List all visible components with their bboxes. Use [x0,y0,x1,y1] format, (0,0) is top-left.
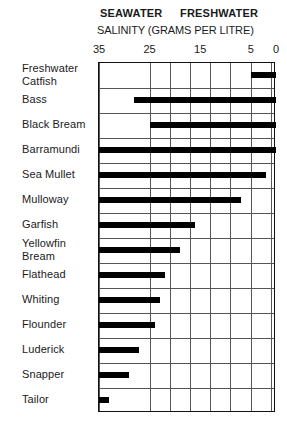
species-label-line: Flathead [22,268,66,281]
x-axis-tick-labels: 35251550 [98,43,287,59]
row-separator [99,113,274,114]
tick-label-0: 0 [273,43,279,56]
bar-bass [134,97,276,103]
species-label-bass: Bass [22,93,47,106]
species-label-line: Freshwater [22,62,78,75]
species-label-column: FreshwaterCatfishBassBlack BreamBarramun… [0,62,95,412]
species-label-line: Luderick [22,343,64,356]
plot-area [98,62,275,412]
species-label-luderick: Luderick [22,343,64,356]
freshwater-zone-label: FRESHWATER [180,7,258,19]
tick-label-35: 35 [93,43,105,56]
bar-freshwater-catfish [251,72,276,78]
row-separator [99,363,274,364]
species-label-line: Flounder [22,318,66,331]
species-label-line: Catfish [22,75,78,88]
row-separator [99,163,274,164]
species-label-sea-mullet: Sea Mullet [22,168,75,181]
species-label-line: Garfish [22,218,58,231]
gridline [170,63,171,411]
bar-yellowfin-bream [99,247,180,253]
bar-garfish [99,222,195,228]
gridline [230,63,231,411]
species-label-line: Black Bream [22,118,85,131]
row-separator [99,238,274,239]
tick-label-25: 25 [143,43,155,56]
row-separator [99,313,274,314]
bar-barramundi [99,147,276,153]
bar-mulloway [99,197,241,203]
bar-tailor [99,397,109,403]
row-separator [99,88,274,89]
species-label-freshwater-catfish: FreshwaterCatfish [22,62,78,87]
salinity-tolerance-chart: SEAWATER FRESHWATER SALINITY (GRAMS PER … [0,0,287,431]
species-label-line: Mulloway [22,193,69,206]
species-label-tailor: Tailor [22,393,49,406]
species-label-whiting: Whiting [22,293,59,306]
species-label-line: Bass [22,93,47,106]
bar-whiting [99,297,160,303]
row-separator [99,338,274,339]
bar-flounder [99,322,155,328]
species-label-barramundi: Barramundi [22,143,80,156]
bar-flathead [99,272,165,278]
row-separator [99,138,274,139]
gridline [210,63,211,411]
zone-title-row: SEAWATER FRESHWATER [98,7,276,21]
species-label-yellowfin-bream: YellowfinBream [22,237,66,262]
row-separator [99,288,274,289]
bar-luderick [99,347,139,353]
species-label-flounder: Flounder [22,318,66,331]
row-separator [99,263,274,264]
species-label-line: Yellowfin [22,237,66,250]
species-label-black-bream: Black Bream [22,118,85,131]
axis-title: SALINITY (GRAMS PER LITRE) [97,24,254,36]
species-label-line: Barramundi [22,143,80,156]
gridline [271,63,272,411]
species-label-line: Bream [22,250,66,263]
row-separator [99,188,274,189]
species-label-snapper: Snapper [22,368,64,381]
gridline [99,63,100,411]
species-label-garfish: Garfish [22,218,58,231]
gridline [190,63,191,411]
bar-black-bream [150,122,276,128]
species-label-line: Snapper [22,368,64,381]
chart-header: SEAWATER FRESHWATER SALINITY (GRAMS PER … [98,0,287,62]
row-separator [99,388,274,389]
gridline [150,63,151,411]
species-label-line: Tailor [22,393,49,406]
species-label-line: Sea Mullet [22,168,75,181]
species-label-mulloway: Mulloway [22,193,69,206]
bar-snapper [99,372,129,378]
species-label-flathead: Flathead [22,268,66,281]
seawater-zone-label: SEAWATER [100,7,163,19]
species-label-line: Whiting [22,293,59,306]
tick-label-15: 15 [194,43,206,56]
row-separator [99,213,274,214]
gridline [251,63,252,411]
tick-label-5: 5 [248,43,254,56]
bar-sea-mullet [99,172,266,178]
